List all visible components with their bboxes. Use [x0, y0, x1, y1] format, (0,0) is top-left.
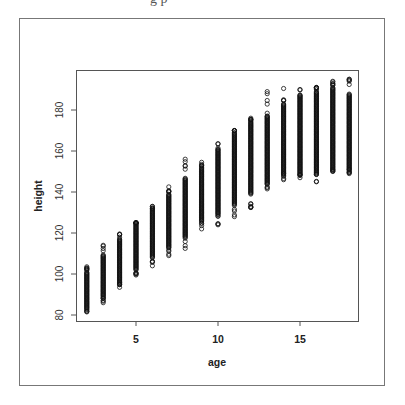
y-tick-label: 120 [54, 224, 65, 241]
y-axis: 80100120140160180 [54, 101, 77, 320]
y-tick-label: 160 [54, 142, 65, 159]
x-tick-label: 5 [133, 333, 139, 345]
data-points [85, 77, 352, 314]
y-tick-label: 80 [54, 309, 65, 321]
y-axis-label: height [32, 180, 44, 212]
x-axis-label: age [208, 356, 226, 368]
y-tick-label: 140 [54, 183, 65, 200]
x-tick-label: 10 [212, 333, 224, 345]
x-axis: 51015 [133, 321, 306, 345]
x-tick-label: 15 [294, 333, 306, 345]
scatter-plot: 51015 80100120140160180 age height [0, 0, 405, 405]
y-tick-label: 180 [54, 101, 65, 118]
y-tick-label: 100 [54, 265, 65, 282]
